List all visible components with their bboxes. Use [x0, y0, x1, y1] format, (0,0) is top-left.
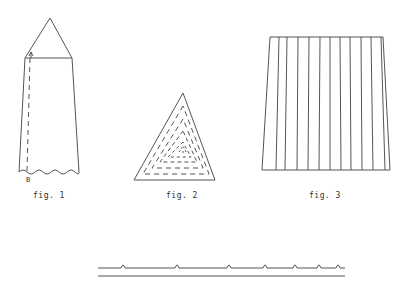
bottom-strip [98, 265, 345, 276]
fig3-trapezoid [262, 37, 390, 170]
fig2-caption: fig. 2 [166, 191, 198, 200]
fig1-obelisk [19, 18, 79, 174]
diagram-canvas [0, 0, 407, 289]
point-label-b: B [26, 176, 31, 184]
fig3-caption: fig. 3 [309, 191, 341, 200]
fig1-caption: fig. 1 [33, 191, 65, 200]
fig2-triangle [134, 93, 215, 180]
